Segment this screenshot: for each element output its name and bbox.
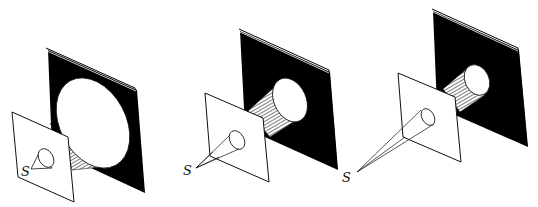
diagram-canvas: S S [0, 0, 538, 207]
panel-3: S [342, 9, 528, 185]
source-label: S [21, 164, 30, 179]
source-label: S [183, 163, 192, 178]
source-label: S [342, 170, 351, 185]
panel-2: S [183, 29, 338, 182]
panel-1: S [12, 48, 145, 202]
